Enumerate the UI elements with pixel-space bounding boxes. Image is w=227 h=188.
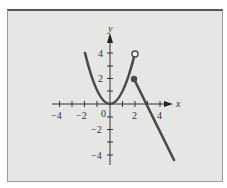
- y-tick-label: 4: [98, 48, 103, 59]
- origin-label: 0: [101, 108, 106, 119]
- open-circle-marker: [132, 51, 138, 57]
- x-axis-label: x: [175, 98, 181, 109]
- piecewise-function-chart: x y −4 −2 0 2 4 4 2 −2 −4: [0, 0, 227, 188]
- y-tick-label: 2: [98, 73, 103, 84]
- y-axis-label: y: [107, 23, 113, 34]
- x-tick-label: −2: [76, 110, 87, 121]
- linear-segment: [134, 79, 174, 160]
- y-tick-label: −2: [91, 124, 102, 135]
- x-axis-arrow-icon: [164, 101, 173, 107]
- x-tick-label: 2: [132, 110, 137, 121]
- x-tick-label: 4: [157, 110, 162, 121]
- filled-dot-marker: [131, 76, 137, 82]
- y-tick-label: −4: [91, 150, 102, 161]
- y-axis-arrow-icon: [107, 33, 113, 43]
- x-tick-label: −4: [51, 110, 62, 121]
